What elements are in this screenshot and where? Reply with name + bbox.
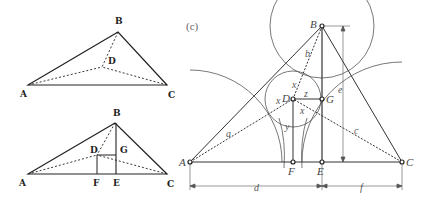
panel-label: (c) xyxy=(186,20,199,33)
top-left-triangle xyxy=(28,32,167,85)
bl-label-g: G xyxy=(120,145,128,155)
tl-label-b: B xyxy=(115,16,123,26)
r-label-f: F xyxy=(287,165,295,177)
seg-label-b: b xyxy=(305,48,310,59)
var-label-z: z xyxy=(303,88,308,99)
seg-label-f: f xyxy=(360,182,364,193)
bl-label-d: D xyxy=(90,145,98,155)
point-b xyxy=(320,24,324,28)
bl-label-c: C xyxy=(167,179,174,189)
r-label-e: E xyxy=(316,165,324,177)
point-f xyxy=(291,160,295,164)
var-label-x-right: x xyxy=(299,105,305,116)
r-label-b: B xyxy=(310,18,317,30)
var-label-x-top: x xyxy=(291,79,297,90)
right-diagram xyxy=(190,0,402,190)
tl-label-c: C xyxy=(168,90,175,100)
point-e xyxy=(320,160,324,164)
bl-label-a: A xyxy=(18,178,27,188)
r-label-c: C xyxy=(406,156,414,168)
tl-label-a: A xyxy=(19,89,28,99)
r-label-d: D xyxy=(281,92,290,104)
var-label-x-left: x xyxy=(275,95,281,106)
seg-label-a: a xyxy=(226,128,231,139)
point-g xyxy=(320,97,324,101)
seg-label-d: d xyxy=(254,182,260,193)
point-c xyxy=(400,160,404,164)
r-label-g: G xyxy=(326,93,334,105)
seg-label-e: e xyxy=(338,84,343,95)
geometry-figure: A B C D A B C D G F E (c) xyxy=(0,0,430,205)
tl-label-d: D xyxy=(108,56,116,66)
point-d xyxy=(291,97,295,101)
seg-label-c: c xyxy=(354,125,359,136)
r-label-a: A xyxy=(178,156,186,168)
var-label-y: y xyxy=(284,121,290,132)
bl-label-b: B xyxy=(113,108,121,118)
bl-label-f: F xyxy=(93,178,100,188)
bl-label-e: E xyxy=(113,178,120,188)
point-a xyxy=(188,160,192,164)
